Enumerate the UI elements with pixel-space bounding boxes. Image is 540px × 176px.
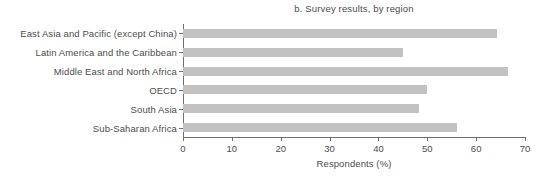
plot-area: East Asia and Pacific (except China)Lati… bbox=[183, 24, 525, 137]
bar bbox=[183, 85, 427, 94]
x-tick-mark bbox=[525, 137, 526, 141]
bar bbox=[183, 123, 457, 132]
chart-title: b. Survey results, by region bbox=[183, 3, 525, 14]
category-label: Latin America and the Caribbean bbox=[36, 47, 177, 58]
bar bbox=[183, 104, 419, 113]
category-label: Middle East and North Africa bbox=[54, 66, 177, 77]
x-tick-label: 70 bbox=[520, 143, 531, 154]
bar-row: South Asia bbox=[183, 99, 525, 118]
x-tick-label: 50 bbox=[422, 143, 433, 154]
x-tick-label: 20 bbox=[275, 143, 286, 154]
category-label: East Asia and Pacific (except China) bbox=[20, 28, 177, 39]
x-axis-line bbox=[183, 137, 525, 138]
x-tick-mark bbox=[232, 137, 233, 141]
x-tick-mark bbox=[281, 137, 282, 141]
x-tick-mark bbox=[330, 137, 331, 141]
bar-row: Sub-Saharan Africa bbox=[183, 118, 525, 137]
x-tick-mark bbox=[476, 137, 477, 141]
bar bbox=[183, 29, 497, 38]
x-tick-label: 10 bbox=[227, 143, 238, 154]
bar-row: Middle East and North Africa bbox=[183, 62, 525, 81]
x-tick-mark bbox=[427, 137, 428, 141]
bar-row: Latin America and the Caribbean bbox=[183, 43, 525, 62]
x-tick-mark bbox=[183, 137, 184, 141]
bar-row: East Asia and Pacific (except China) bbox=[183, 24, 525, 43]
category-label: Sub-Saharan Africa bbox=[93, 122, 177, 133]
survey-results-bar-chart: b. Survey results, by region East Asia a… bbox=[0, 0, 540, 176]
category-label: South Asia bbox=[131, 103, 177, 114]
category-label: OECD bbox=[149, 84, 177, 95]
x-tick-label: 40 bbox=[373, 143, 384, 154]
x-tick-label: 0 bbox=[180, 143, 185, 154]
bar bbox=[183, 48, 403, 57]
x-tick-mark bbox=[378, 137, 379, 141]
bar-row: OECD bbox=[183, 81, 525, 100]
bar bbox=[183, 67, 508, 76]
x-tick-label: 30 bbox=[324, 143, 335, 154]
x-tick-label: 60 bbox=[471, 143, 482, 154]
x-axis-title: Respondents (%) bbox=[183, 158, 525, 169]
